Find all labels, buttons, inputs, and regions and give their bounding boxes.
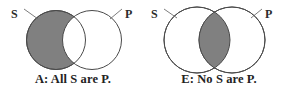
venn-diagram-figure: S P A: All S are P.	[0, 0, 292, 97]
predicate-leader-line-a	[110, 9, 122, 19]
predicate-label-a: P	[125, 8, 132, 20]
predicate-label-e: P	[265, 8, 272, 20]
caption-a: A: All S are P.	[0, 72, 146, 87]
predicate-leader-line-e	[251, 9, 262, 18]
subject-leader-line-a	[24, 9, 38, 19]
subject-label-e: S	[151, 8, 158, 20]
predicate-circle-a	[63, 11, 122, 70]
venn-panel-a: S P A: All S are P.	[0, 0, 146, 97]
subject-label-a: S	[11, 8, 18, 20]
caption-e: E: No S are P.	[146, 72, 292, 87]
subject-leader-line-e	[164, 9, 177, 18]
venn-panel-e: S P E: No S are P.	[146, 0, 292, 97]
